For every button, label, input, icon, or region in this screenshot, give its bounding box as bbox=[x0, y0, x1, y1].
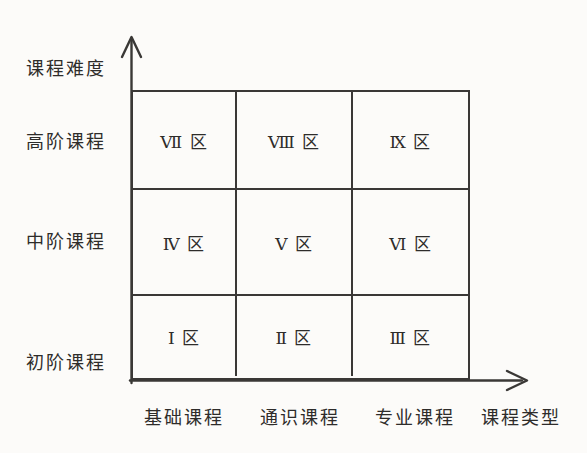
col-label-basic: 基础课程 bbox=[144, 403, 224, 429]
grid-cell-r1c1: Ⅴ 区 bbox=[237, 190, 353, 296]
grid-cell-r2c0: Ⅰ 区 bbox=[133, 296, 237, 376]
col-label-professional: 专业课程 bbox=[375, 403, 455, 429]
x-axis-arrow-icon bbox=[507, 371, 527, 390]
grid-cell-r2c2: Ⅲ 区 bbox=[353, 296, 468, 376]
row-label-advanced: 高阶课程 bbox=[26, 127, 126, 153]
row-label-beginner: 初阶课程 bbox=[26, 348, 126, 374]
grid-cell-r0c2: Ⅸ 区 bbox=[353, 92, 468, 190]
y-axis-title: 课程难度 bbox=[26, 54, 126, 80]
matrix-grid: Ⅶ 区 Ⅷ 区 Ⅸ 区 Ⅳ 区 Ⅴ 区 Ⅵ 区 Ⅰ 区 Ⅱ 区 Ⅲ 区 bbox=[131, 90, 470, 380]
matrix-diagram: Ⅶ 区 Ⅷ 区 Ⅸ 区 Ⅳ 区 Ⅴ 区 Ⅵ 区 Ⅰ 区 Ⅱ 区 Ⅲ 区 课程难度… bbox=[0, 0, 587, 453]
grid-cell-r0c0: Ⅶ 区 bbox=[133, 92, 237, 190]
row-label-intermediate: 中阶课程 bbox=[26, 227, 126, 253]
col-label-general: 通识课程 bbox=[260, 403, 340, 429]
grid-cell-r0c1: Ⅷ 区 bbox=[237, 92, 353, 190]
grid-cell-r2c1: Ⅱ 区 bbox=[237, 296, 353, 376]
x-axis-title: 课程类型 bbox=[481, 403, 561, 429]
grid-cell-r1c2: Ⅵ 区 bbox=[353, 190, 468, 296]
grid-cell-r1c0: Ⅳ 区 bbox=[133, 190, 237, 296]
